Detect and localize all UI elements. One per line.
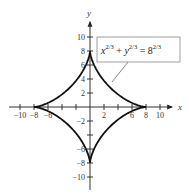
x-tick-label: −10 (14, 111, 27, 120)
x-tick-label: −8 (30, 111, 39, 120)
y-tick-label: 10 (77, 33, 85, 42)
x-axis-label: x (177, 102, 182, 112)
y-tick-label: −2 (76, 117, 85, 126)
y-tick-label: −10 (72, 173, 85, 182)
y-tick-label: 8 (81, 47, 85, 56)
x-tick-label: 8 (144, 111, 148, 120)
x-tick-label: 10 (156, 111, 164, 120)
leader-line (112, 62, 128, 82)
y-tick-label: 2 (81, 89, 85, 98)
x-tick-label: 2 (102, 111, 106, 120)
astroid-chart: x y −10−8−626810108642−2−6−8−10 x2/3 + y… (0, 0, 189, 196)
y-tick-label: 4 (81, 75, 85, 84)
y-tick-label: −8 (76, 159, 85, 168)
y-axis-label: y (86, 8, 91, 18)
